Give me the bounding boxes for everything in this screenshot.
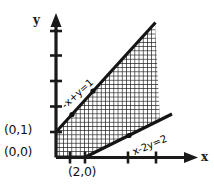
graph-figure: y x (0,1) (0,0) (2,0) -x+y=1 x-2y=2 (0, 0, 214, 184)
boundary-point-marker (69, 112, 74, 117)
x-axis-arrowhead (184, 152, 198, 163)
point-label-y-intercept: (0,1) (4, 124, 32, 137)
boundary-point-marker (90, 88, 95, 93)
boundary-point-marker (126, 133, 131, 138)
point-label-x-intercept: (2,0) (68, 166, 96, 179)
point-label-origin: (0,0) (4, 146, 32, 159)
x-axis-label: x (201, 151, 208, 163)
y-axis-arrowhead (51, 13, 62, 27)
y-axis-label: y (33, 14, 40, 26)
